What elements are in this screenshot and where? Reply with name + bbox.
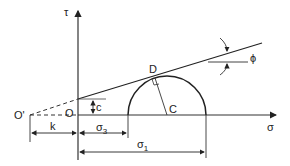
- mohr-circle-diagram: τ σ ϕ D C O' O c k σ3 σ1: [0, 0, 290, 166]
- sigma-label: σ: [267, 121, 274, 133]
- phi-arrow-top: [220, 38, 227, 51]
- mohr-circle: [128, 76, 206, 115]
- sigma3-label: σ3: [96, 121, 108, 136]
- failure-envelope: [78, 43, 262, 99]
- phi-arrow-bottom: [220, 64, 227, 75]
- point-o-label: O: [65, 107, 74, 119]
- k-label: k: [50, 120, 56, 132]
- point-c-label: C: [169, 103, 177, 115]
- radius-line: [155, 78, 167, 115]
- point-o-prime-label: O': [14, 109, 25, 121]
- cohesion-label: c: [96, 101, 102, 113]
- sigma1-label: σ1: [137, 138, 149, 153]
- tau-label: τ: [64, 6, 69, 18]
- point-d-label: D: [149, 63, 157, 75]
- phi-label: ϕ: [250, 52, 256, 64]
